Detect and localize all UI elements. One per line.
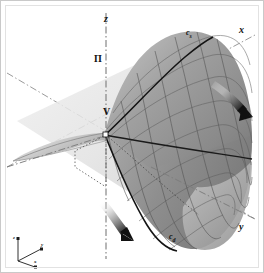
figure-frame: z x y Π V cs cd z y x: [0, 0, 264, 273]
triad-axis-y: [18, 249, 41, 261]
axis-label-z: z: [104, 14, 108, 24]
curve-label-cd-sub: d: [173, 237, 176, 243]
vertex-label: V: [103, 107, 110, 117]
scene-canvas: [1, 1, 264, 273]
curve-label-cs-sub: s: [190, 33, 192, 39]
triad-label-x: x: [34, 259, 37, 264]
curve-label-cd: cd: [169, 233, 176, 243]
plane-label-pi: Π: [94, 54, 102, 64]
triad-axis-x: [18, 261, 35, 267]
vertex-marker: [103, 132, 108, 137]
arrow-bottom: [99, 199, 134, 241]
orientation-triad: [17, 237, 44, 269]
triad-label-z: z: [13, 235, 15, 240]
triad-label-y: y: [41, 242, 43, 247]
axis-label-x: x: [239, 25, 244, 35]
axis-label-y: y: [239, 222, 243, 232]
curve-label-cs: cs: [186, 29, 192, 39]
